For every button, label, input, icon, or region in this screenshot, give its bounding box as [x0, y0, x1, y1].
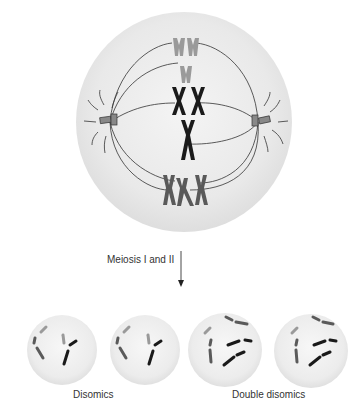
- daughter-cell-disomic-2: [110, 315, 180, 385]
- daughter-cell-double-disomic-1: [188, 313, 262, 387]
- group-label-double-disomics: Double disomics: [232, 389, 305, 400]
- process-label: Meiosis I and II: [107, 254, 174, 265]
- daughter-cell-disomic-1: [27, 315, 97, 385]
- meiosis-diagram: [0, 0, 361, 413]
- daughter-cell-double-disomic-2: [274, 314, 348, 388]
- parent-cell: [76, 12, 292, 232]
- process-arrow: [178, 251, 184, 287]
- group-label-disomics: Disomics: [73, 389, 114, 400]
